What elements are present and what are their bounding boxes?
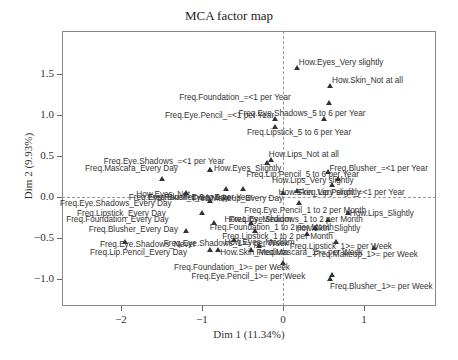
point-marker — [207, 167, 213, 172]
point-marker — [280, 190, 286, 195]
point-marker — [223, 186, 229, 191]
point-label: Freq.Foundation_Every Day — [66, 215, 168, 224]
x-tick-label: −1 — [187, 313, 217, 325]
point-label: Freq.Lip.Pencil_Every Day — [90, 248, 187, 257]
x-tick-label: 0 — [268, 313, 298, 325]
point-label: Freq.Makeup_1>= per Week — [314, 250, 418, 259]
point-label: Freq.Foundation_=<1 per Year — [179, 93, 291, 102]
point-marker — [248, 247, 254, 252]
x-tick-label: 1 — [349, 313, 379, 325]
point-marker — [326, 100, 332, 105]
point-label: Freq.Foundation_1>= per Week — [174, 263, 290, 272]
point-label: Freq.Blusher_1>= per Week — [330, 282, 433, 291]
y-tick — [57, 156, 62, 157]
point-label: Freq.Blusher_Every Day — [89, 225, 178, 234]
point-marker — [240, 186, 246, 191]
point-label: Freq.Eye.Shadows_1>= per Week — [164, 239, 289, 248]
point-marker — [183, 228, 189, 233]
point-label: How.Lips_Very slightly — [272, 176, 353, 185]
point-label: Freq.Eye.Shadows_Every Day — [60, 199, 172, 208]
y-tick-label: −1.0 — [20, 272, 54, 284]
x-tick — [283, 306, 284, 311]
y-tick — [57, 115, 62, 116]
x-tick — [364, 306, 365, 311]
y-tick — [57, 74, 62, 75]
y-tick — [57, 238, 62, 239]
point-label: How.Lips_Not at all — [269, 150, 339, 159]
point-marker — [329, 182, 335, 187]
y-tick-label: 1.5 — [20, 67, 54, 79]
point-label: How.Eyes_Very slightly — [299, 58, 384, 67]
point-label: Freq.Lipstick_5 to 6 per Year — [247, 128, 351, 137]
y-tick — [57, 197, 62, 198]
point-marker — [159, 176, 165, 181]
point-marker — [207, 247, 213, 252]
point-label: How.Skin_Not at all — [332, 76, 403, 85]
point-marker — [327, 276, 333, 281]
y-tick-label: −0.5 — [20, 231, 54, 243]
x-tick — [121, 306, 122, 311]
chart-title: MCA factor map — [0, 8, 458, 24]
point-label: Freq.Eye.Shadows_5 to 6 per Year — [239, 109, 366, 118]
y-axis-label: Dim 2 (9.93%) — [22, 116, 34, 216]
point-label: Freq.Eye.Pencil_1>= per Week — [192, 272, 306, 281]
point-marker — [296, 200, 302, 205]
point-marker — [207, 198, 213, 203]
y-tick — [57, 279, 62, 280]
point-marker — [199, 210, 205, 215]
x-axis-label: Dim 1 (11.34%) — [62, 328, 436, 340]
x-tick-label: −2 — [106, 313, 136, 325]
point-label: Freq.Lip.Pencil_=<1 per Year — [299, 188, 405, 197]
point-label: Freq.Mascara_Every Day — [85, 164, 178, 173]
x-tick — [202, 306, 203, 311]
